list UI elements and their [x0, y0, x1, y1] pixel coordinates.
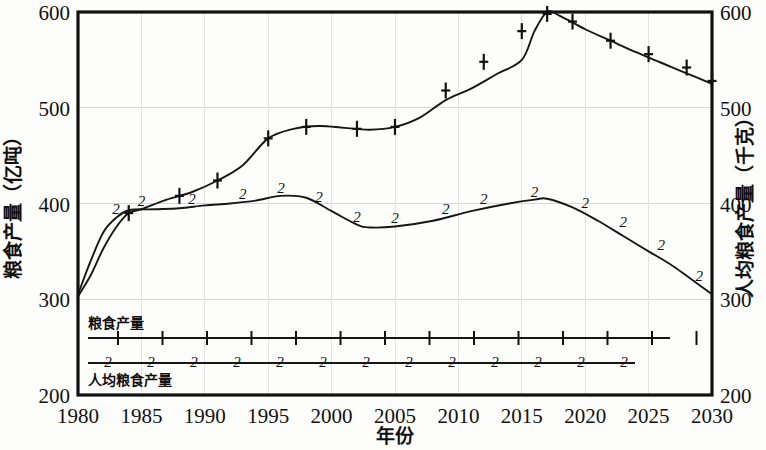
marker-series2: 2 — [353, 209, 361, 225]
x-axis-tick-labels: 1980198519901995200020052010201520202025… — [57, 404, 733, 428]
marker-series2: 2 — [480, 191, 488, 207]
y-axis-right-tick-label: 600 — [720, 1, 752, 25]
marker-series2: 2 — [581, 195, 589, 211]
y-axis-left-tick-label: 400 — [39, 193, 71, 217]
legend-marker-series2: 2 — [319, 354, 327, 370]
marker-series2: 2 — [112, 201, 120, 217]
x-axis-tick-label: 1995 — [247, 404, 289, 428]
x-axis-tick-label: 2010 — [437, 404, 479, 428]
marker-series2: 2 — [391, 210, 399, 226]
y-axis-left-tick-labels: 200300400500600 — [39, 1, 71, 408]
legend-marker-series2: 2 — [362, 354, 370, 370]
legend: 粮食产量2222222222222人均粮食产量 — [88, 315, 697, 388]
x-axis-title: 年份 — [376, 425, 415, 447]
marker-series2: 2 — [531, 184, 539, 200]
marker-series2: 2 — [696, 268, 704, 284]
marker-series2: 2 — [619, 214, 627, 230]
marker-series2: 2 — [239, 186, 247, 202]
y-axis-left-title: 粮食产量（亿吨） — [2, 127, 24, 279]
y-axis-left-tick-label: 600 — [39, 1, 71, 25]
y-axis-left-tick-label: 500 — [39, 97, 71, 121]
chart-page: 200300400500600 200300400500600 19801985… — [0, 0, 766, 450]
x-axis-tick-label: 2000 — [311, 404, 353, 428]
legend-marker-series2: 2 — [405, 354, 413, 370]
x-axis-tick-label: 2005 — [374, 404, 416, 428]
y-axis-right-title: 人均粮食产量（千克） — [734, 108, 756, 298]
legend-marker-series2: 2 — [147, 354, 155, 370]
marker-series2: 2 — [658, 237, 666, 253]
x-axis-tick-label: 2025 — [628, 404, 670, 428]
legend-marker-series2: 2 — [233, 354, 241, 370]
legend-marker-series2: 2 — [190, 354, 198, 370]
legend-label-series1: 粮食产量 — [88, 315, 144, 331]
legend-marker-series2: 2 — [276, 354, 284, 370]
legend-marker-series2: 2 — [491, 354, 499, 370]
x-axis-tick-label: 2030 — [691, 404, 733, 428]
marker-series2: 2 — [277, 180, 285, 196]
x-axis-tick-label: 2020 — [564, 404, 606, 428]
y-axis-left-tick-label: 300 — [39, 288, 71, 312]
marker-series2: 2 — [315, 189, 323, 205]
legend-marker-series2: 2 — [104, 354, 112, 370]
dual-axis-line-chart: 200300400500600 200300400500600 19801985… — [0, 0, 766, 450]
legend-marker-series2: 2 — [620, 354, 628, 370]
x-axis-tick-label: 1990 — [184, 404, 226, 428]
marker-series2: 2 — [138, 193, 146, 209]
marker-series2: 2 — [442, 201, 450, 217]
x-axis-tick-label: 1980 — [57, 404, 99, 428]
marker-series2: 2 — [188, 191, 196, 207]
x-axis-tick-label: 1985 — [120, 404, 162, 428]
legend-marker-series2: 2 — [448, 354, 456, 370]
legend-marker-series2: 2 — [577, 354, 585, 370]
legend-label-series2: 人均粮食产量 — [88, 372, 172, 388]
legend-marker-series2: 2 — [534, 354, 542, 370]
x-axis-tick-label: 2015 — [501, 404, 543, 428]
